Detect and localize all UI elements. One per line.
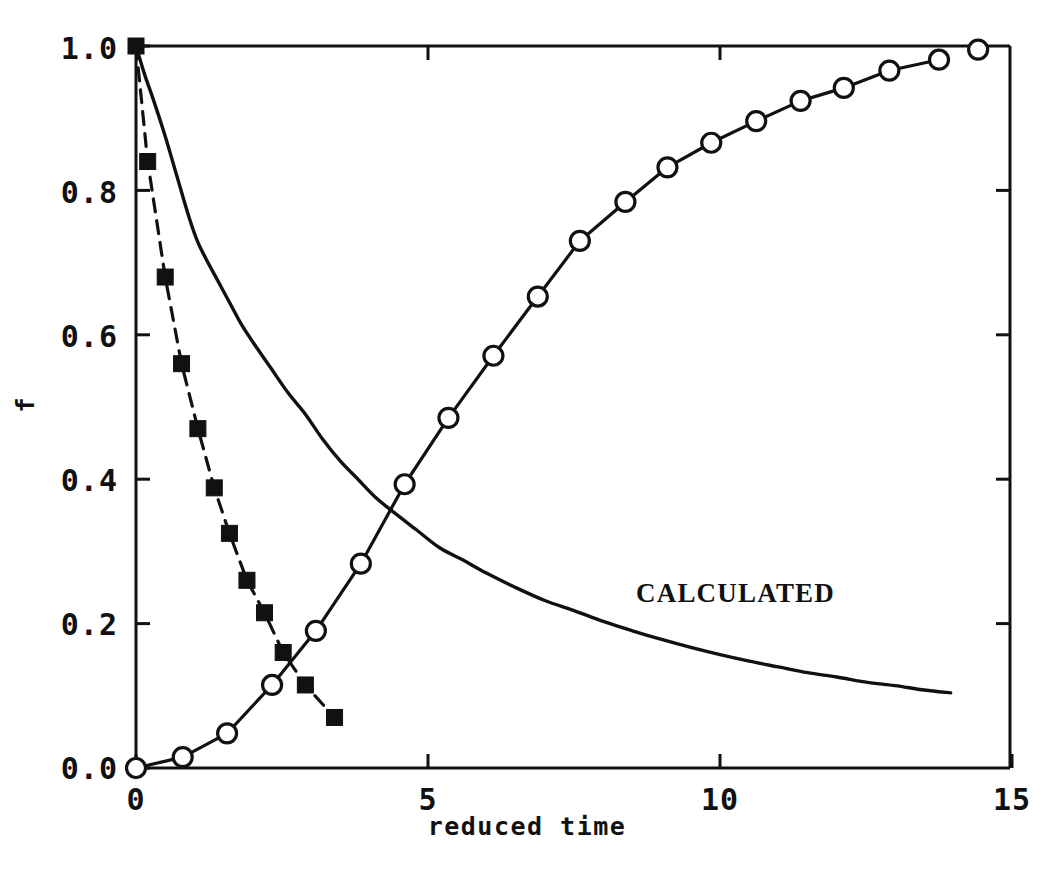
x-axis-title: reduced time (428, 812, 627, 841)
data-point-circle-9 (528, 287, 547, 306)
data-point-circle-3 (263, 675, 282, 694)
data-point-circle-8 (484, 346, 503, 365)
data-point-square-5 (206, 480, 222, 496)
data-point-circle-19 (969, 40, 988, 59)
series-increasing-circle-series (127, 40, 988, 777)
ytick-label-2: 0.6 (30, 319, 118, 354)
y-axis-title: f (11, 397, 40, 412)
ytick-label-1: 0.8 (30, 175, 118, 210)
data-point-circle-18 (930, 50, 949, 69)
xtick-label-3: 15 (993, 782, 1031, 817)
data-point-circle-10 (570, 231, 589, 250)
data-point-square-11 (327, 709, 343, 725)
xtick-label-0: 0 (126, 782, 145, 817)
data-point-circle-7 (439, 408, 458, 427)
data-point-circle-15 (791, 91, 810, 110)
data-point-circle-11 (616, 192, 635, 211)
ytick-label-0: 1.0 (30, 31, 118, 66)
xtick-label-2: 10 (701, 782, 739, 817)
data-point-square-9 (275, 644, 291, 660)
data-point-circle-17 (880, 61, 899, 80)
data-point-circle-6 (395, 475, 414, 494)
data-point-circle-0 (127, 759, 146, 778)
data-point-circle-16 (834, 78, 853, 97)
plot-canvas (0, 0, 1054, 875)
data-point-circle-5 (351, 554, 370, 573)
data-point-square-8 (256, 605, 272, 621)
chart-figure: 1.0 0.8 0.6 0.4 0.2 0.0 0 5 10 15 reduce… (0, 0, 1054, 875)
data-point-square-4 (190, 421, 206, 437)
data-point-circle-13 (702, 133, 721, 152)
series-line-increasing-circle-series (136, 60, 939, 768)
data-point-circle-14 (747, 112, 766, 131)
calculated-annotation: CALCULATED (636, 578, 835, 609)
data-point-square-7 (239, 572, 255, 588)
ytick-label-5: 0.0 (30, 751, 118, 786)
data-point-circle-12 (658, 158, 677, 177)
series-line-decreasing-square-series (136, 46, 335, 717)
data-series-group (127, 38, 988, 778)
data-point-circle-2 (218, 724, 237, 743)
axis-ticks (136, 46, 1012, 768)
data-point-square-10 (297, 677, 313, 693)
ytick-label-4: 0.2 (30, 607, 118, 642)
ytick-label-3: 0.4 (30, 463, 118, 498)
data-point-square-3 (174, 356, 190, 372)
axis-frame (136, 46, 1010, 768)
data-point-square-6 (221, 525, 237, 541)
data-point-square-1 (140, 154, 156, 170)
data-point-circle-4 (306, 621, 325, 640)
data-point-square-0 (128, 38, 144, 54)
data-point-square-2 (157, 269, 173, 285)
data-point-circle-1 (173, 748, 192, 767)
